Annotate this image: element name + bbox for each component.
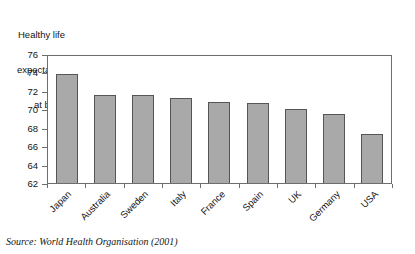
bar-germany[interactable] — [323, 114, 345, 183]
x-axis-labels: JapanAustraliaSwedenItalyFranceSpainUKGe… — [47, 189, 392, 229]
x-tick-mark — [162, 184, 163, 188]
bar-france[interactable] — [208, 102, 230, 183]
y-tick-label: 76 — [27, 50, 38, 60]
bar-slot — [124, 56, 162, 183]
y-tick-label: 72 — [27, 87, 38, 97]
source-note: Source: World Health Organisation (2001) — [6, 236, 178, 248]
bar-usa[interactable] — [361, 134, 383, 183]
x-tick-mark — [124, 184, 125, 188]
y-tick-label: 62 — [27, 179, 38, 189]
x-tick-mark — [277, 184, 278, 188]
y-tick-label: 66 — [27, 142, 38, 152]
bar-slot — [86, 56, 124, 183]
bar-slot — [353, 56, 391, 183]
bar-australia[interactable] — [94, 95, 116, 183]
x-tick-mark — [392, 184, 393, 188]
bar-slot — [315, 56, 353, 183]
x-tick-mark — [315, 184, 316, 188]
bar-italy[interactable] — [170, 98, 192, 183]
y-tick-label: 70 — [27, 105, 38, 115]
x-tick-mark — [85, 184, 86, 188]
bar-slot — [200, 56, 238, 183]
bar-slot — [48, 56, 86, 183]
x-tick-mark — [47, 184, 48, 188]
bar-slot — [162, 56, 200, 183]
x-tick-mark — [200, 184, 201, 188]
bar-sweden[interactable] — [132, 95, 154, 183]
y-tick-label: 64 — [27, 161, 38, 171]
y-axis-labels: 7674727068666462 — [0, 49, 40, 190]
plot-area — [47, 55, 392, 184]
bar-slot — [239, 56, 277, 183]
x-tick-mark — [354, 184, 355, 188]
bar-slot — [277, 56, 315, 183]
bars-layer — [48, 56, 391, 183]
y-tick-label: 74 — [27, 68, 38, 78]
x-tick-mark — [239, 184, 240, 188]
y-tick-label: 68 — [27, 124, 38, 134]
bar-uk[interactable] — [285, 109, 307, 183]
bar-spain[interactable] — [247, 103, 269, 183]
bar-japan[interactable] — [56, 74, 78, 183]
chart-title-line-1: Healthy life — [17, 29, 132, 41]
